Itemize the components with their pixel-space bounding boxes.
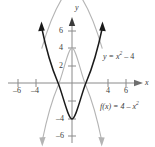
parabolas-plot bbox=[0, 0, 155, 147]
x-tick-label-4: 4 bbox=[106, 87, 110, 95]
y-tick-label-neg6: –6 bbox=[56, 132, 64, 140]
x-tick-label-neg4: –4 bbox=[31, 87, 39, 95]
x-tick-label-6: 6 bbox=[124, 87, 128, 95]
y-tick-label-neg4: –4 bbox=[56, 115, 64, 123]
x-tick-label-neg6: –6 bbox=[13, 87, 21, 95]
curve1-label-main: y = x bbox=[103, 52, 120, 61]
graph-figure: –6 –4 4 6 6 4 2 –4 –6 y x y = x2 – 4 f(x… bbox=[0, 0, 155, 147]
curve2-label-exponent: 2 bbox=[136, 100, 139, 106]
y-tick-label-2: 2 bbox=[59, 62, 63, 70]
curve1-label-tail: – 4 bbox=[122, 52, 134, 61]
curve-label-f-of-x-equals-4-minus-x-squared: f(x) = 4 – x2 bbox=[100, 103, 139, 111]
curve-label-y-equals-x-squared-minus-4: y = x2 – 4 bbox=[103, 53, 134, 61]
x-axis bbox=[8, 80, 143, 86]
y-tick-label-4: 4 bbox=[59, 44, 63, 52]
x-axis-label: x bbox=[145, 79, 149, 87]
curve2-label-main: f(x) = 4 – x bbox=[100, 102, 136, 111]
y-tick-label-6: 6 bbox=[59, 27, 63, 35]
y-axis bbox=[69, 17, 75, 143]
y-axis-label: y bbox=[75, 4, 79, 12]
